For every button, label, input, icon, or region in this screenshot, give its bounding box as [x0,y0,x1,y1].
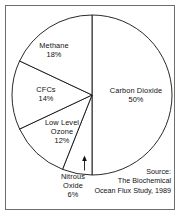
pie-label-methane: Methane 18% [28,41,80,59]
chart-figure: Carbon Dioxide 50% Methane 18% CFCs 14% … [0,0,180,215]
pie-label-methane-value: 18% [28,50,80,59]
source-line-1: Source: [61,167,171,176]
pie-label-low-level-ozone-name-line1: Low Level [34,118,90,127]
pie-label-cfcs: CFCs 14% [24,85,68,103]
pie-label-carbon-dioxide-value: 50% [96,95,176,104]
source-attribution: Source: The Biochemical Ocean Flux Study… [61,167,171,195]
source-line-3: Ocean Flux Study, 1989 [61,186,171,195]
pie-label-low-level-ozone: Low Level Ozone 12% [34,118,90,146]
pie-label-carbon-dioxide-name: Carbon Dioxide [96,86,176,95]
pie-label-low-level-ozone-value: 12% [34,136,90,145]
source-line-2: The Biochemical [61,176,171,185]
pie-label-carbon-dioxide: Carbon Dioxide 50% [96,86,176,104]
pie-label-methane-name: Methane [28,41,80,50]
pie-label-cfcs-value: 14% [24,94,68,103]
pie-label-cfcs-name: CFCs [24,85,68,94]
pie-label-low-level-ozone-name-line2: Ozone [34,127,90,136]
